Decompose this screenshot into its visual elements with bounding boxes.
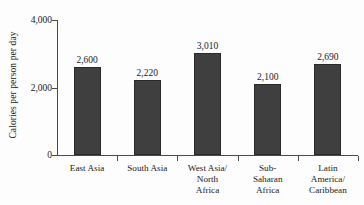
x-category-label: Sub- Saharan Africa [238, 163, 298, 197]
x-tick-mark-2 [177, 156, 178, 161]
y-tick-label-4000: 4,000 [8, 15, 52, 25]
bar-value-label: 2,690 [303, 52, 353, 63]
bar-south-asia [134, 80, 161, 155]
x-axis-line [57, 155, 358, 156]
x-tick-mark-3 [238, 156, 239, 161]
x-tick-mark-5 [358, 156, 359, 161]
x-tick-mark-1 [117, 156, 118, 161]
x-category-label: East Asia [57, 163, 117, 174]
bar-value-label: 2,220 [122, 68, 172, 79]
bar-latin-america-caribbean [314, 64, 341, 155]
y-tick-mark-2000 [52, 88, 57, 89]
bar-value-label: 3,010 [183, 41, 233, 52]
bar-west-asia-north-africa [194, 53, 221, 155]
y-tick-mark-4000 [52, 20, 57, 21]
bar-east-asia [74, 67, 101, 155]
bar-value-label: 2,600 [62, 55, 112, 66]
x-category-label: South Asia [117, 163, 177, 174]
x-category-label: West Asia/ North Africa [178, 163, 238, 197]
y-tick-label-2000: 2,000 [8, 83, 52, 93]
bar-sub-saharan-africa [254, 84, 281, 155]
bar-value-label: 2,100 [243, 72, 293, 83]
x-category-label: Latin America/ Caribbean [298, 163, 358, 197]
bar-chart: Calories per person per day 4,000 2,000 … [0, 0, 364, 205]
y-tick-label-0: 0 [8, 150, 52, 160]
y-tick-mark-0 [52, 155, 57, 156]
x-tick-mark-4 [298, 156, 299, 161]
y-axis-line [57, 20, 58, 156]
